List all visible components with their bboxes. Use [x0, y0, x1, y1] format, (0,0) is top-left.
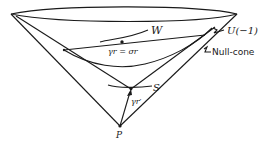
- s-curve: [108, 85, 152, 87]
- label-p: P: [115, 130, 123, 140]
- label-gamma-prime: γr′: [131, 97, 142, 106]
- apex-point-p: [118, 124, 121, 127]
- label-null-cone: Null-cone: [212, 47, 255, 57]
- null-cone-pointer-zigzag: [204, 47, 211, 52]
- label-gamma-eq-sigma: γr = σr: [108, 47, 139, 56]
- cone-left-edge: [11, 14, 120, 126]
- label-w: W: [151, 24, 164, 37]
- left-intersection-point: [63, 49, 65, 51]
- w-curve: [100, 30, 148, 42]
- gamma-sigma-point: [120, 40, 123, 43]
- null-cone-diagram: W γr = σr U(−1) Null-cone S γr′ P: [0, 0, 273, 146]
- s-point: [130, 88, 133, 91]
- top-rim-ellipse: [11, 7, 237, 22]
- label-s: S: [153, 82, 160, 93]
- label-u-minus-one: U(−1): [227, 25, 258, 36]
